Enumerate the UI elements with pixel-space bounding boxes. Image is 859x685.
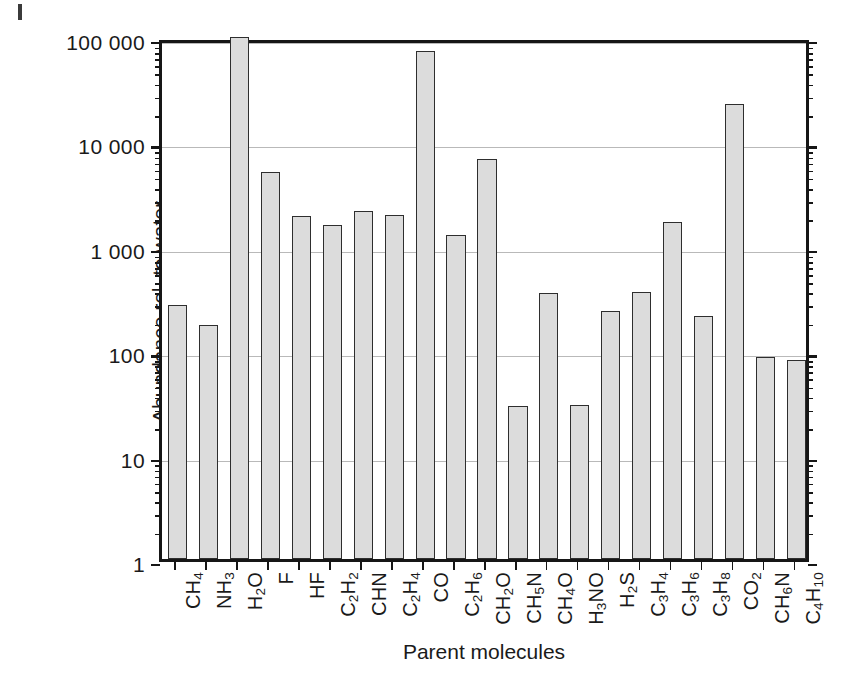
axis-tick-minor	[155, 189, 161, 191]
axis-tick-major	[808, 146, 817, 148]
axis-tick-major	[808, 251, 817, 253]
axis-tick-minor	[155, 366, 161, 368]
x-axis-tick	[329, 562, 331, 570]
axis-tick-minor	[155, 293, 161, 295]
axis-tick-minor	[155, 74, 161, 76]
axis-tick-minor	[807, 66, 813, 68]
axis-tick-minor	[807, 262, 813, 264]
axis-tick-minor	[155, 361, 161, 363]
bar-HF	[292, 216, 311, 559]
axis-tick-minor	[155, 53, 161, 55]
axis-tick-minor	[155, 283, 161, 285]
y-tick-label: 10	[121, 448, 145, 472]
axis-tick-minor	[807, 268, 813, 270]
axis-tick-minor	[807, 152, 813, 154]
x-axis-tick	[794, 562, 796, 570]
axis-tick-minor	[155, 275, 161, 277]
axis-tick-minor	[155, 492, 161, 494]
axis-tick-minor	[155, 202, 161, 204]
axis-tick-minor	[807, 484, 813, 486]
axis-tick-minor	[155, 262, 161, 264]
axis-tick-major	[808, 460, 817, 462]
axis-tick-minor	[155, 98, 161, 100]
axis-tick-minor	[807, 275, 813, 277]
bar-F	[261, 172, 280, 559]
x-tick-label-CH6N: CH6N	[771, 572, 795, 624]
axis-tick-minor	[155, 171, 161, 173]
axis-tick-minor	[807, 171, 813, 173]
axis-tick-minor	[155, 534, 161, 536]
x-axis-tick	[236, 562, 238, 570]
x-axis-tick	[608, 562, 610, 570]
axis-tick-minor	[155, 429, 161, 431]
x-axis-tick	[515, 562, 517, 570]
x-tick-label-C4H10: C4H10	[802, 572, 826, 625]
x-tick-label-CHN: CHN	[368, 572, 391, 616]
y-tick-label: 100	[109, 344, 145, 368]
axis-tick-major	[151, 251, 160, 253]
axis-tick-minor	[155, 116, 161, 118]
axis-tick-minor	[807, 325, 813, 327]
axis-tick-minor	[155, 66, 161, 68]
axis-tick-minor	[155, 388, 161, 390]
axis-tick-minor	[155, 411, 161, 413]
bar-C2H6	[446, 235, 465, 559]
axis-tick-minor	[155, 268, 161, 270]
x-axis-tick	[484, 562, 486, 570]
axis-tick-minor	[155, 325, 161, 327]
axis-tick-minor	[155, 502, 161, 504]
bar-C2H4	[385, 215, 404, 559]
bar-CHN	[354, 211, 373, 559]
axis-tick-minor	[155, 48, 161, 50]
bar-C3H8	[694, 316, 713, 560]
axis-tick-minor	[155, 59, 161, 61]
x-axis-title: Parent molecules	[159, 640, 809, 664]
axis-tick-minor	[155, 465, 161, 467]
axis-tick-major	[151, 355, 160, 357]
bar-CH2O	[477, 159, 496, 559]
axis-tick-minor	[155, 471, 161, 473]
axis-tick-minor	[807, 220, 813, 222]
axis-tick-minor	[155, 379, 161, 381]
x-axis-tick	[298, 562, 300, 570]
bar-C2H2	[323, 225, 342, 560]
axis-tick-minor	[155, 179, 161, 181]
x-tick-label-HF: HF	[306, 572, 329, 599]
axis-tick-minor	[807, 48, 813, 50]
x-axis-tick	[701, 562, 703, 570]
x-tick-label-C3H6: C3H6	[678, 572, 702, 617]
axis-tick-major	[808, 355, 817, 357]
x-tick-label-H3NO: H3NO	[585, 572, 609, 625]
axis-tick-minor	[807, 306, 813, 308]
axis-tick-minor	[807, 379, 813, 381]
axis-tick-minor	[807, 74, 813, 76]
bar-CH4	[168, 305, 187, 559]
axis-tick-minor	[155, 158, 161, 160]
bar-CH4O	[539, 293, 558, 559]
axis-tick-minor	[155, 398, 161, 400]
x-axis-tick	[205, 562, 207, 570]
axis-tick-minor	[807, 189, 813, 191]
axis-tick-minor	[155, 515, 161, 517]
bar-CO	[416, 51, 435, 559]
axis-tick-minor	[807, 388, 813, 390]
axis-tick-minor	[807, 53, 813, 55]
axis-tick-minor	[807, 293, 813, 295]
x-axis-tick	[360, 562, 362, 570]
axis-tick-minor	[807, 98, 813, 100]
axis-tick-minor	[155, 152, 161, 154]
y-tick-label: 1 000	[90, 239, 145, 263]
axis-tick-minor	[807, 372, 813, 374]
axis-tick-minor	[807, 158, 813, 160]
x-axis-tick	[577, 562, 579, 570]
bar-C4H10	[787, 360, 806, 559]
x-tick-label-C2H2: C2H2	[337, 572, 361, 617]
axis-tick-minor	[807, 471, 813, 473]
axis-tick-minor	[807, 411, 813, 413]
bar-CH5N	[508, 406, 527, 559]
bar-C3H4	[632, 292, 651, 559]
x-tick-label-C3H8: C3H8	[709, 572, 733, 617]
axis-tick-minor	[155, 477, 161, 479]
x-tick-label-H2S: H2S	[616, 572, 640, 608]
axis-tick-minor	[807, 465, 813, 467]
